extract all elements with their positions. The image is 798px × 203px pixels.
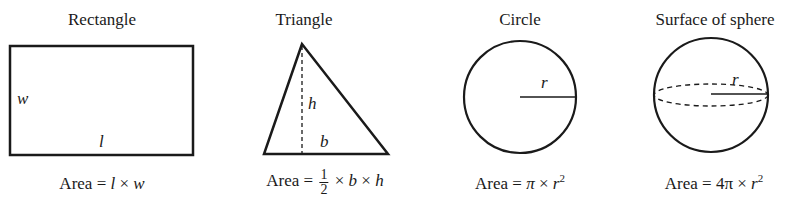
formula-r: r xyxy=(751,174,758,193)
rectangle-label-w: w xyxy=(17,89,28,109)
circle-title: Circle xyxy=(499,10,541,30)
triangle-title: Triangle xyxy=(276,10,333,30)
rectangle-title: Rectangle xyxy=(68,10,136,30)
formula-exponent: 2 xyxy=(559,172,565,184)
formula-h: h xyxy=(375,171,384,190)
sphere-equator xyxy=(654,84,768,106)
formula-times: × xyxy=(733,174,751,193)
formula-prefix: Area = xyxy=(665,174,716,193)
sphere-formula: Area = 4π × r2 xyxy=(665,172,763,194)
formula-times: × xyxy=(330,171,348,190)
formula-times: × xyxy=(357,171,375,190)
rectangle-formula: Area = l × w xyxy=(59,174,144,194)
fraction-numerator: 1 xyxy=(319,168,328,183)
triangle-formula: Area = 12 × b × h xyxy=(266,168,383,197)
circle-formula: Area = π × r2 xyxy=(475,172,565,194)
formula-b: b xyxy=(349,171,358,190)
fraction-denominator: 2 xyxy=(319,183,328,197)
triangle-label-b: b xyxy=(320,132,329,152)
formula-pi: π xyxy=(526,174,535,193)
sphere-title: Surface of sphere xyxy=(656,10,775,30)
formula-exponent: 2 xyxy=(758,172,764,184)
formula-w: w xyxy=(133,174,144,193)
triangle-label-h: h xyxy=(308,94,317,114)
sphere-shape xyxy=(654,38,768,152)
formula-prefix: Area = xyxy=(475,174,526,193)
rectangle-label-l: l xyxy=(99,132,104,152)
formula-times: × xyxy=(115,174,133,193)
fraction-half: 12 xyxy=(319,168,328,197)
formula-prefix: Area = xyxy=(266,171,317,190)
formula-prefix: Area = xyxy=(59,174,110,193)
circle-label-r: r xyxy=(541,73,548,93)
sphere-label-r: r xyxy=(732,70,739,90)
formula-coefficient: 4π xyxy=(716,174,733,193)
formula-times: × xyxy=(535,174,553,193)
